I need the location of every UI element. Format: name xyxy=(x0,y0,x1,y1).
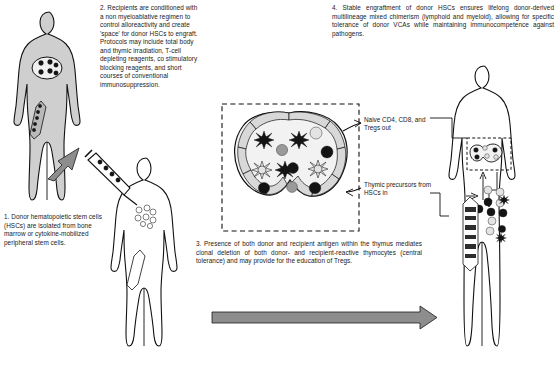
diagram-artwork xyxy=(0,0,557,368)
step-3-caption: 3. Presence of both donor and recipient … xyxy=(196,240,422,266)
step-1-caption: 1. Donor hematopoietic stem cells (HSCs)… xyxy=(4,213,108,247)
timeline-arrow xyxy=(212,306,437,329)
chimeric-marrow-bone xyxy=(463,197,478,271)
chimeric-body-figure xyxy=(430,66,515,346)
recipient-body-figure xyxy=(85,150,177,346)
callout-thymic-precursors-in: Thymic precursors from HSCs in xyxy=(364,181,442,198)
step-2-caption: 2. Recipients are conditioned with a non… xyxy=(100,4,200,89)
donor-bone-marrow-region xyxy=(32,57,62,79)
figure-canvas: 1. Donor hematopoietic stem cells (HSCs)… xyxy=(0,0,557,368)
callout-naive-cells-out: Naive CD4, CD8, and Tregs out xyxy=(364,116,436,133)
step-4-caption: 4. Stable engraftment of donor HSCs ensu… xyxy=(332,4,554,38)
donor-body-figure xyxy=(14,12,80,200)
thymus-detail-panel xyxy=(222,104,361,231)
